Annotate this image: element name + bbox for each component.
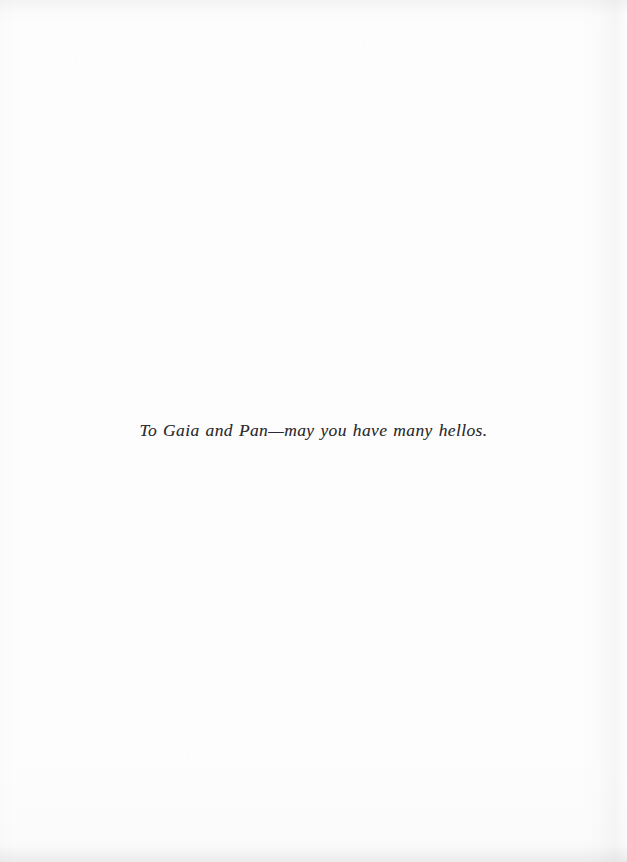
scan-edge-shading-bottom [0, 846, 627, 862]
dedication-text: To Gaia and Pan—may you have many hellos… [139, 419, 487, 441]
scan-edge-shading-top [0, 0, 627, 14]
dedication-block: To Gaia and Pan—may you have many hellos… [0, 419, 627, 441]
scanned-book-page: To Gaia and Pan—may you have many hellos… [0, 0, 627, 862]
